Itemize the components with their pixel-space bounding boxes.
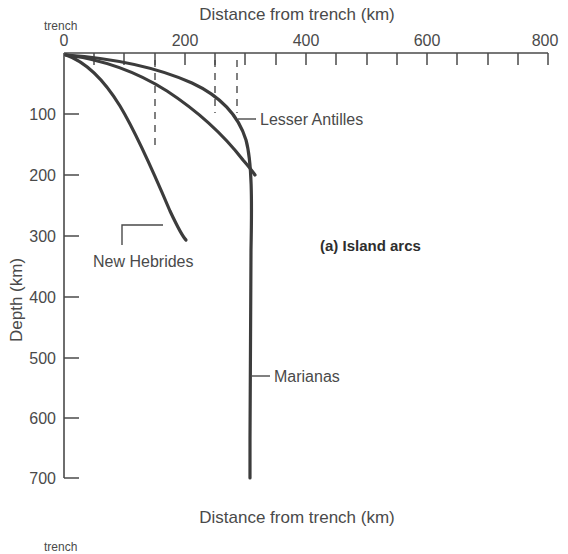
curve-new-hebrides	[66, 55, 186, 240]
y-tick-label-200: 200	[29, 167, 56, 184]
series-label-marianas: Marianas	[274, 368, 340, 385]
y-tick-label-300: 300	[29, 228, 56, 245]
y-tick-label-600: 600	[29, 410, 56, 427]
x-tick-label-600: 600	[414, 32, 441, 49]
y-axis-title: Depth (km)	[7, 258, 26, 342]
y-tick-label-400: 400	[29, 289, 56, 306]
subduction-profile-chart: Distance from trench (km) trench 0 200 4…	[0, 0, 568, 554]
next-panel-trench-label: trench	[44, 540, 77, 554]
x-tick-label-200: 200	[172, 32, 199, 49]
x-tick-label-0: 0	[60, 32, 69, 49]
panel-title: (a) Island arcs	[320, 237, 421, 254]
x-tick-label-400: 400	[293, 32, 320, 49]
leader-new-hebrides	[122, 225, 163, 245]
next-panel-x-axis-title: Distance from trench (km)	[199, 508, 395, 527]
series-label-lesser-antilles: Lesser Antilles	[260, 111, 363, 128]
y-tick-label-700: 700	[29, 470, 56, 487]
y-axis-ticks	[64, 114, 79, 478]
x-axis-ticks	[94, 53, 548, 65]
series-label-new-hebrides: New Hebrides	[93, 253, 193, 270]
y-tick-label-500: 500	[29, 350, 56, 367]
figure-island-arcs: Distance from trench (km) trench 0 200 4…	[0, 0, 568, 554]
y-tick-label-100: 100	[29, 106, 56, 123]
trench-label: trench	[44, 19, 77, 33]
x-axis-title: Distance from trench (km)	[199, 5, 395, 24]
x-tick-label-800: 800	[532, 32, 559, 49]
